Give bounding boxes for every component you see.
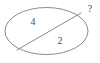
segment-label-4: 4 <box>31 17 36 27</box>
geometry-figure: 4 2 ? <box>0 0 100 63</box>
segment-label-2: 2 <box>58 36 63 46</box>
unknown-value-label: ? <box>88 4 92 14</box>
figure-canvas <box>0 0 100 63</box>
circle-outline <box>5 8 88 55</box>
chord-line <box>17 13 81 50</box>
